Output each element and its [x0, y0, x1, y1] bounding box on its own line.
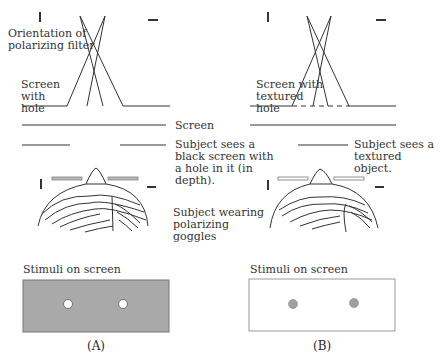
stimulus-box-a [23, 280, 169, 332]
screen-with-hole-label: Screen with hole [21, 79, 71, 115]
subject-head-b [268, 169, 384, 232]
subject-head-a [38, 168, 156, 232]
screen-with-textured-hole-label: Screen with textured hole [256, 79, 328, 115]
percept-label-b: Subject sees a textured object. [354, 139, 440, 175]
filter-orientation-label: Orientation of polarizing filter [8, 28, 100, 52]
subject-label: Subject wearing polarizing goggles [173, 207, 268, 243]
panel-label-a: (A) [87, 339, 105, 353]
screen-label: Screen [175, 120, 214, 132]
panel-label-b: (B) [313, 339, 331, 353]
stimulus-box-b [249, 279, 395, 331]
stimuli-label-b: Stimuli on screen [250, 264, 348, 276]
percept-label-a: Subject sees a black screen with a hole … [175, 139, 275, 187]
stimuli-label-a: Stimuli on screen [23, 264, 121, 276]
